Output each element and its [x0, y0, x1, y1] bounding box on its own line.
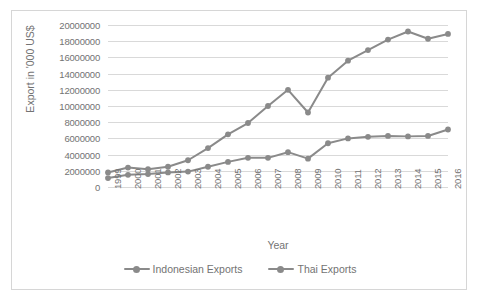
x-axis-tick-label: 2004 — [212, 169, 223, 189]
x-axis-tick-label: 2012 — [372, 169, 383, 189]
y-axis-tick-label: 10000000 — [59, 101, 100, 112]
x-axis-tick-label: 2005 — [232, 169, 243, 189]
data-point-marker — [205, 164, 211, 170]
y-axis-tick-label: 14000000 — [59, 68, 100, 79]
data-point-marker — [105, 175, 111, 181]
data-point-marker — [365, 47, 371, 53]
data-point-marker — [165, 170, 171, 176]
data-point-marker — [325, 140, 331, 146]
x-axis-title: Year — [108, 239, 448, 251]
data-point-marker — [385, 37, 391, 43]
x-axis-tick-label: 2015 — [432, 169, 443, 189]
x-axis-tick-label: 2001 — [152, 169, 163, 189]
x-axis-tick-label: 2007 — [272, 169, 283, 189]
data-point-marker — [445, 31, 451, 37]
data-point-marker — [425, 36, 431, 42]
data-point-marker — [185, 169, 191, 175]
y-axis-tick-label: 6000000 — [64, 133, 100, 144]
data-point-marker — [305, 110, 311, 116]
chart-frame: Export in '000 US$ 200000001800000016000… — [11, 10, 467, 290]
x-axis-tick-label: 2014 — [412, 169, 423, 189]
series-lines — [108, 25, 448, 187]
x-axis-tick-label: 2013 — [392, 169, 403, 189]
data-point-marker — [385, 133, 391, 139]
chart-plot-wrapper: Export in '000 US$ 200000001800000016000… — [12, 11, 468, 291]
data-point-marker — [225, 131, 231, 137]
data-point-marker — [265, 103, 271, 109]
y-axis-tick-labels: 2000000018000000160000001400000012000000… — [22, 25, 104, 187]
x-axis-tick-label: 2002 — [172, 169, 183, 189]
data-point-marker — [125, 172, 131, 178]
x-axis-tick-label: 2011 — [352, 169, 363, 189]
y-axis-tick-label: 20000000 — [59, 20, 100, 31]
data-point-marker — [185, 157, 191, 163]
data-point-marker — [445, 127, 451, 133]
data-point-marker — [285, 87, 291, 93]
data-point-marker — [245, 155, 251, 161]
data-point-marker — [145, 166, 151, 172]
legend-item[interactable]: Thai Exports — [268, 263, 356, 275]
legend-swatch-icon — [268, 265, 294, 274]
y-axis-tick-label: 8000000 — [64, 117, 100, 128]
y-axis-tick-label: 0 — [95, 182, 100, 193]
data-point-marker — [105, 170, 111, 176]
data-point-marker — [345, 58, 351, 64]
data-point-marker — [305, 156, 311, 162]
legend-item[interactable]: Indonesian Exports — [124, 263, 243, 275]
data-point-marker — [265, 155, 271, 161]
x-axis-tick-label: 2010 — [332, 169, 343, 189]
x-axis-tick-label: 2016 — [452, 169, 463, 189]
plot-area — [108, 25, 448, 187]
data-point-marker — [225, 159, 231, 165]
y-axis-tick-label: 4000000 — [64, 149, 100, 160]
legend-item-label: Indonesian Exports — [153, 263, 243, 275]
data-point-marker — [425, 133, 431, 139]
series-line — [108, 31, 448, 172]
x-axis-tick-labels: 1999200020012002200320042005200620072008… — [108, 189, 448, 235]
chart-legend: Indonesian ExportsThai Exports — [12, 263, 468, 275]
data-point-marker — [345, 136, 351, 142]
data-point-marker — [285, 149, 291, 155]
data-point-marker — [365, 134, 371, 140]
x-axis-tick-label: 2006 — [252, 169, 263, 189]
y-axis-tick-label: 16000000 — [59, 52, 100, 63]
y-axis-tick-label: 2000000 — [64, 165, 100, 176]
data-point-marker — [405, 133, 411, 139]
data-point-marker — [165, 164, 171, 170]
x-axis-tick-label: 2009 — [312, 169, 323, 189]
legend-item-label: Thai Exports — [297, 263, 356, 275]
data-point-marker — [205, 145, 211, 151]
x-axis-tick-label: 2000 — [132, 169, 143, 189]
data-point-marker — [325, 75, 331, 81]
y-axis-tick-label: 12000000 — [59, 84, 100, 95]
legend-swatch-icon — [124, 265, 150, 274]
x-axis-tick-label: 2008 — [292, 169, 303, 189]
data-point-marker — [405, 29, 411, 35]
x-axis-tick-label: 2003 — [192, 169, 203, 189]
data-point-marker — [125, 165, 131, 171]
x-axis-tick-label: 1999 — [112, 169, 123, 189]
y-axis-tick-label: 18000000 — [59, 36, 100, 47]
data-point-marker — [245, 120, 251, 126]
